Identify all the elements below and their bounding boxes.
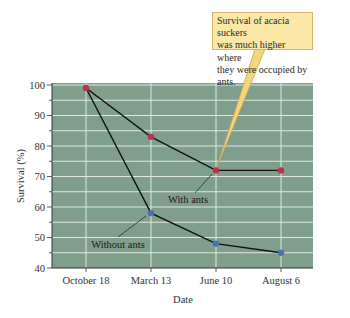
data-point — [213, 240, 219, 246]
x-tick-label: October 18 — [63, 275, 110, 286]
x-axis-title: Date — [173, 294, 193, 305]
data-point — [213, 167, 219, 173]
y-axis-title: Survival (%) — [15, 149, 27, 203]
data-point — [148, 210, 154, 216]
data-point — [83, 85, 89, 91]
with-ants-label: With ants — [168, 194, 208, 205]
y-tick-label: 60 — [35, 202, 46, 213]
y-tick-label: 70 — [35, 171, 46, 182]
data-point — [148, 134, 154, 140]
callout-line-2: was much higher where — [217, 39, 308, 63]
callout-line-1: Survival of acacia suckers — [217, 15, 308, 39]
annotation-callout: Survival of acacia suckers was much high… — [212, 12, 313, 50]
x-tick-label: June 10 — [200, 275, 232, 286]
y-axis-ticks: 405060708090100 — [29, 80, 52, 274]
data-point — [278, 167, 284, 173]
y-tick-label: 40 — [35, 263, 46, 274]
callout-line-3: they were occupied by ants. — [217, 64, 308, 88]
x-axis-ticks: October 18March 13June 10August 6 — [63, 268, 301, 286]
without-ants-label: Without ants — [91, 239, 145, 250]
y-tick-label: 90 — [35, 110, 46, 121]
x-tick-label: August 6 — [262, 275, 300, 286]
x-tick-label: March 13 — [131, 275, 172, 286]
y-tick-label: 100 — [29, 80, 45, 91]
y-tick-label: 80 — [35, 141, 46, 152]
y-tick-label: 50 — [35, 232, 46, 243]
data-point — [278, 250, 284, 256]
